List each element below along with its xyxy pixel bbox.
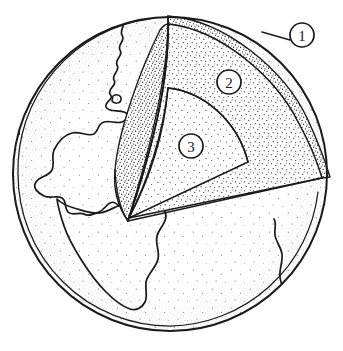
earth-cutaway-figure: 1 2 3 [0, 0, 343, 351]
callout-1-text: 1 [298, 28, 306, 44]
callout-label-3[interactable]: 3 [179, 134, 203, 158]
callout-2-text: 2 [225, 75, 233, 91]
callout-3-text: 3 [187, 139, 195, 155]
callout-label-1[interactable]: 1 [290, 23, 314, 47]
callout-1-leader-line [262, 32, 290, 40]
earth-diagram-svg: 1 2 3 [0, 0, 343, 351]
callout-label-2[interactable]: 2 [217, 70, 241, 94]
